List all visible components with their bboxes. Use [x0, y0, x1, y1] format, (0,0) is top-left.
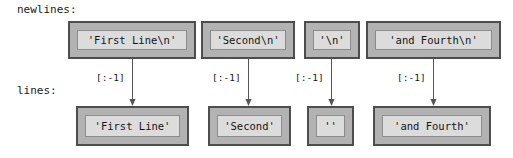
- newlines-box-1-inner: 'Second\n': [210, 30, 286, 50]
- newlines-box-0: 'First Line\n': [68, 21, 196, 59]
- newlines-box-3-text: 'and Fourth\n': [389, 35, 478, 46]
- slice-arrow-0: [127, 59, 138, 107]
- slice-label-3: [:-1]: [397, 72, 426, 83]
- lines-box-1: 'Second': [208, 106, 291, 146]
- lines-box-1-text: 'Second': [224, 121, 275, 132]
- slice-arrow-3: [428, 59, 439, 107]
- string-slicing-diagram: newlines: lines: 'First Line\n' 'Second\…: [0, 0, 513, 158]
- slice-label-2: [:-1]: [295, 72, 324, 83]
- lines-box-1-inner: 'Second': [217, 115, 282, 137]
- lines-row-label: lines:: [17, 84, 57, 97]
- newlines-box-3-inner: 'and Fourth\n': [375, 30, 492, 50]
- lines-box-2-text: '': [324, 121, 337, 132]
- lines-box-2-inner: '': [316, 115, 345, 137]
- lines-box-3: 'and Fourth': [373, 106, 491, 146]
- newlines-box-3: 'and Fourth\n': [366, 21, 501, 59]
- slice-label-0: [:-1]: [96, 72, 125, 83]
- slice-arrow-1: [243, 59, 254, 107]
- lines-box-0: 'First Line': [76, 106, 189, 146]
- newlines-box-0-text: 'First Line\n': [88, 35, 177, 46]
- lines-box-0-inner: 'First Line': [85, 115, 180, 137]
- lines-box-2: '': [307, 106, 354, 146]
- lines-box-3-text: 'and Fourth': [394, 121, 470, 132]
- newlines-box-1: 'Second\n': [201, 21, 295, 59]
- slice-label-1: [:-1]: [212, 72, 241, 83]
- newlines-box-2: '\n': [304, 21, 360, 59]
- newlines-box-1-text: 'Second\n': [216, 35, 279, 46]
- newlines-row-label: newlines:: [17, 3, 77, 16]
- slice-arrow-2: [326, 59, 337, 107]
- newlines-box-0-inner: 'First Line\n': [77, 30, 187, 50]
- lines-box-3-inner: 'and Fourth': [382, 115, 482, 137]
- newlines-box-2-inner: '\n': [313, 30, 351, 50]
- newlines-box-2-text: '\n': [319, 35, 344, 46]
- lines-box-0-text: 'First Line': [95, 121, 171, 132]
